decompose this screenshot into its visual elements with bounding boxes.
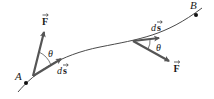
point-b-label: B <box>190 0 197 11</box>
svg-text:F: F <box>174 63 180 74</box>
displacement-vector-right-arrow <box>133 38 159 41</box>
displacement-label-left: d s <box>57 64 68 77</box>
point-a-label: A <box>14 70 22 82</box>
force-label-left: F <box>42 14 48 28</box>
svg-text:s: s <box>63 65 67 76</box>
point-a-dot <box>24 81 28 85</box>
work-path-diagram: A B F θ d s d s θ F <box>0 0 214 99</box>
angle-arc-right <box>148 39 150 49</box>
displacement-label-right: d s <box>151 21 162 34</box>
svg-text:s: s <box>157 22 161 33</box>
force-vector-right-arrow <box>133 41 169 61</box>
svg-text:F: F <box>42 16 48 27</box>
theta-label-right: θ <box>156 42 161 53</box>
theta-label-left: θ <box>48 48 53 59</box>
point-b-dot <box>194 13 198 17</box>
force-label-right: F <box>174 61 180 75</box>
